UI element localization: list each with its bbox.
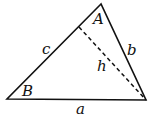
side-label-b: b: [127, 41, 137, 59]
side-label-c: c: [42, 40, 51, 58]
vertex-label-A: A: [91, 10, 104, 28]
vertex-label-B: B: [21, 82, 33, 100]
altitude-label-h: h: [97, 57, 107, 75]
side-label-a: a: [76, 100, 85, 116]
altitude-h-dashed: [79, 27, 146, 100]
triangle-diagram: A B a b c h: [0, 0, 149, 116]
